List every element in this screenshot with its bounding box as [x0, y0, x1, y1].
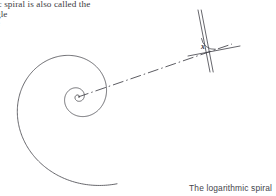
- figure-page: hmic spiral is also called the gle e x T…: [0, 0, 276, 196]
- logarithmic-spiral-figure: x: [0, 0, 276, 196]
- spiral-curve: [17, 55, 117, 185]
- tangent-line: [198, 10, 210, 72]
- angle-base-line: [188, 46, 240, 56]
- tangent-line-secondary: [201, 10, 213, 72]
- figure-caption: The logarithmic spiral: [189, 183, 272, 193]
- angle-label-x: x: [200, 42, 205, 51]
